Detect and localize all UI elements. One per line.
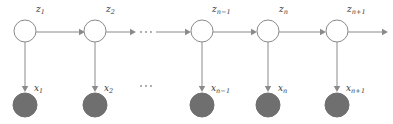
- observed-nodes: [13, 93, 349, 117]
- graphical-model-diagram: z1 z2 zn−1 zn zn+1 x1 x2 xn−1 xn xn+1: [0, 0, 393, 124]
- observed-label-x1: x1: [34, 84, 43, 93]
- latent-node-z1: [14, 20, 36, 42]
- latent-label-zn: zn: [279, 5, 288, 14]
- edge-zn+1-continuation: [348, 29, 388, 35]
- edge-zn-zn+1: [279, 29, 326, 35]
- latent-label-zn-1: zn−1: [212, 5, 231, 14]
- edge-ellipsis-zn-1: [156, 29, 191, 35]
- edge-zn-xn: [265, 42, 271, 92]
- observed-node-xn+1: [325, 93, 349, 117]
- observed-label-x2: x2: [104, 84, 113, 93]
- edge-z2-x2: [92, 42, 98, 92]
- edge-z1-x1: [22, 42, 28, 92]
- top-ellipsis-icon: [140, 31, 152, 33]
- observed-node-xn: [256, 93, 280, 117]
- latent-label-zn+1: zn+1: [347, 5, 366, 14]
- latent-node-zn: [257, 20, 279, 42]
- observed-node-xn-1: [190, 93, 214, 117]
- bottom-ellipsis-icon: [140, 85, 152, 87]
- observed-node-x2: [83, 93, 107, 117]
- edge-zn+1-xn+1: [334, 42, 340, 92]
- latent-node-zn+1: [326, 20, 348, 42]
- latent-label-z2: z2: [106, 5, 115, 14]
- observed-label-xn+1: xn+1: [346, 84, 365, 93]
- observed-label-xn-1: xn−1: [211, 84, 230, 93]
- edge-zn-1-xn-1: [199, 42, 205, 92]
- emission-edges: [22, 42, 340, 92]
- latent-node-z2: [84, 20, 106, 42]
- edge-z1-z2: [36, 29, 85, 35]
- latent-label-z1: z1: [36, 5, 45, 14]
- edge-zn-1-zn: [213, 29, 257, 35]
- latent-nodes: [14, 20, 348, 42]
- latent-node-zn-1: [191, 20, 213, 42]
- observed-label-xn: xn: [278, 84, 287, 93]
- diagram-canvas: [0, 0, 393, 124]
- edge-z2-ellipsis: [106, 29, 136, 35]
- observed-node-x1: [13, 93, 37, 117]
